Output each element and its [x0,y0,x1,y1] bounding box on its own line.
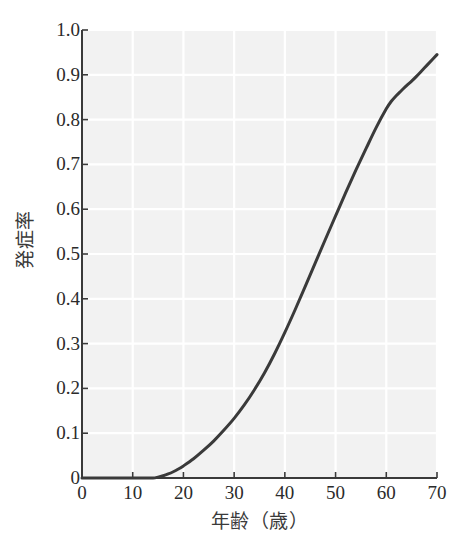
plot-canvas [0,0,457,544]
chart-figure: 発症率 年齢（歳） 00.10.20.30.40.50.60.70.80.91.… [0,0,457,544]
